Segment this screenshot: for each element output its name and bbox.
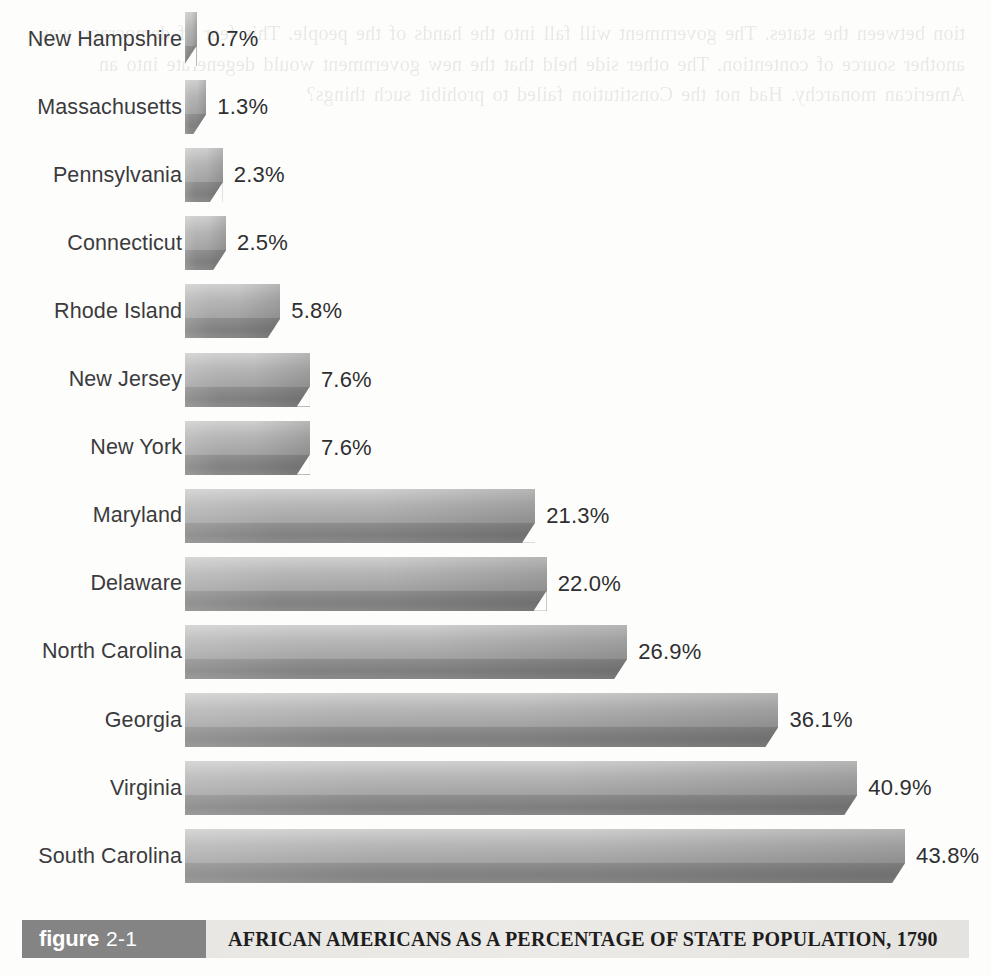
chart-row: Connecticut2.5% <box>0 212 991 274</box>
bar-bottom-face <box>185 659 627 679</box>
bar <box>185 421 310 475</box>
bar-top-face <box>185 761 857 795</box>
chart-row: New York7.6% <box>0 417 991 479</box>
chart-row: Pennsylvania2.3% <box>0 144 991 206</box>
bar-top-face <box>185 12 197 46</box>
bar-value-label: 40.9% <box>868 775 931 801</box>
chart-row: Virginia40.9% <box>0 757 991 819</box>
bar-bottom-face <box>185 863 905 883</box>
category-label: South Carolina <box>38 825 182 887</box>
bar-group: 0.7% <box>185 8 258 70</box>
category-label: North Carolina <box>42 621 182 683</box>
bar-value-label: 2.5% <box>237 230 288 256</box>
bar-top-face <box>185 216 226 250</box>
bar-value-label: 0.7% <box>208 26 259 52</box>
bar <box>185 489 535 543</box>
bar-bottom-face <box>185 455 310 475</box>
chart-row: Maryland21.3% <box>0 485 991 547</box>
bar-group: 43.8% <box>185 825 979 887</box>
bar <box>185 284 280 338</box>
category-label: New Hampshire <box>28 8 182 70</box>
chart-row: Delaware22.0% <box>0 553 991 615</box>
chart-row: Massachusetts1.3% <box>0 76 991 138</box>
bar-group: 36.1% <box>185 689 853 751</box>
category-label: Pennsylvania <box>53 144 182 206</box>
bar-group: 40.9% <box>185 757 932 819</box>
bar-top-face <box>185 421 310 455</box>
bar-group: 2.3% <box>185 144 285 206</box>
chart-row: North Carolina26.9% <box>0 621 991 683</box>
figure-number-badge: figure 2-1 <box>22 920 206 958</box>
bar-chart: New Hampshire0.7%Massachusetts1.3%Pennsy… <box>0 0 991 908</box>
bar-value-label: 7.6% <box>321 367 372 393</box>
bar-value-label: 21.3% <box>546 503 609 529</box>
bar-bottom-face <box>185 318 280 338</box>
figure-badge-word: figure <box>39 926 99 952</box>
chart-row: New Hampshire0.7% <box>0 8 991 70</box>
bar-bottom-face <box>185 727 778 747</box>
figure-caption: figure 2-1 AFRICAN AMERICANS AS A PERCEN… <box>22 920 969 958</box>
bar <box>185 625 627 679</box>
figure-caption-title: AFRICAN AMERICANS AS A PERCENTAGE OF STA… <box>206 920 969 958</box>
bar-group: 7.6% <box>185 417 372 479</box>
bar-value-label: 2.3% <box>234 162 285 188</box>
bar-top-face <box>185 693 778 727</box>
bar <box>185 829 905 883</box>
bar <box>185 557 547 611</box>
bar-group: 26.9% <box>185 621 702 683</box>
category-label: Massachusetts <box>37 76 182 138</box>
bar-value-label: 7.6% <box>321 435 372 461</box>
bar-bottom-face <box>185 795 857 815</box>
bar-group: 22.0% <box>185 553 621 615</box>
chart-row: South Carolina43.8% <box>0 825 991 887</box>
figure-badge-number: 2-1 <box>106 927 137 951</box>
bar-value-label: 43.8% <box>916 843 979 869</box>
bar-top-face <box>185 284 280 318</box>
bar <box>185 12 197 66</box>
bar-top-face <box>185 489 535 523</box>
bar <box>185 693 778 747</box>
bar-group: 1.3% <box>185 76 268 138</box>
bar-group: 5.8% <box>185 280 342 342</box>
chart-row: New Jersey7.6% <box>0 349 991 411</box>
bar-group: 2.5% <box>185 212 288 274</box>
bar-value-label: 5.8% <box>291 298 342 324</box>
category-label: Georgia <box>105 689 182 751</box>
bar <box>185 148 223 202</box>
chart-row: Georgia36.1% <box>0 689 991 751</box>
figure-container: tion between the states. The government … <box>0 0 991 976</box>
category-label: New Jersey <box>69 349 182 411</box>
bar-group: 7.6% <box>185 349 372 411</box>
bar <box>185 80 206 134</box>
category-label: Virginia <box>110 757 182 819</box>
category-label: New York <box>90 417 182 479</box>
category-label: Rhode Island <box>54 280 182 342</box>
bar-top-face <box>185 829 905 863</box>
bar-value-label: 26.9% <box>638 639 701 665</box>
bar <box>185 216 226 270</box>
bar-bottom-face <box>185 387 310 407</box>
bar-value-label: 36.1% <box>789 707 852 733</box>
bar-top-face <box>185 625 627 659</box>
bar-value-label: 1.3% <box>217 94 268 120</box>
bar-top-face <box>185 80 206 114</box>
category-label: Delaware <box>90 553 182 615</box>
bar-bottom-face <box>185 591 547 611</box>
chart-row: Rhode Island5.8% <box>0 280 991 342</box>
bar-bottom-face <box>185 523 535 543</box>
bar-value-label: 22.0% <box>558 571 621 597</box>
bar-top-face <box>185 353 310 387</box>
category-label: Maryland <box>93 485 182 547</box>
bar-top-face <box>185 148 223 182</box>
bar-group: 21.3% <box>185 485 610 547</box>
bar-top-face <box>185 557 547 591</box>
category-label: Connecticut <box>67 212 182 274</box>
bar <box>185 761 857 815</box>
bar <box>185 353 310 407</box>
